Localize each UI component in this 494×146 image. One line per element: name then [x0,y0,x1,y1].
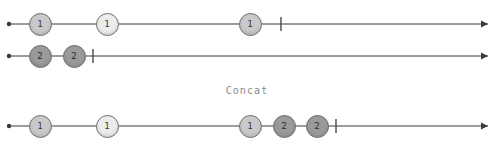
marble[interactable]: 2 [29,45,52,68]
marble[interactable]: 1 [29,115,52,138]
marble[interactable]: 2 [63,45,86,68]
timeline-source-2: 22 [0,41,494,71]
axis-arrowhead [481,123,488,130]
axis-arrowhead [481,53,488,60]
timeline-result: 11122 [0,111,494,141]
marble[interactable]: 1 [96,13,119,36]
axis-start-dot [7,22,11,26]
marble[interactable]: 2 [273,115,296,138]
marble-diagram-canvas: MARBLE DIAGRAM - MARBLE OF API Concat 11… [0,0,494,146]
axis-arrowhead [481,21,488,28]
diagram-title-clipped: MARBLE DIAGRAM - MARBLE OF API [0,0,494,3]
marble[interactable]: 1 [29,13,52,36]
marble[interactable]: 2 [306,115,329,138]
marble[interactable]: 1 [239,13,262,36]
operator-label: Concat [0,85,494,96]
marble[interactable]: 1 [96,115,119,138]
marble[interactable]: 1 [239,115,262,138]
axis-start-dot [7,124,11,128]
axis-start-dot [7,54,11,58]
timeline-source-1: 111 [0,9,494,39]
